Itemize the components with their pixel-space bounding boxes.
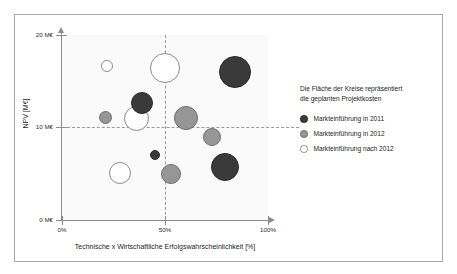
bubble-1-0[interactable] [99,111,112,124]
x-tick-label-50: 50% [145,226,185,233]
legend-caption: Die Fläche der Kreise repräsentiert die … [300,84,435,104]
bubble-0-1[interactable] [219,56,251,88]
bubble-0-3[interactable] [211,153,239,181]
x-tick-mark-100 [268,216,269,225]
chart-legend: Die Fläche der Kreise repräsentiert die … [300,84,440,156]
bubble-1-3[interactable] [161,164,181,184]
legend-caption-line-1: Die Fläche der Kreise repräsentiert [300,84,435,94]
bubble-2-3[interactable] [109,162,131,184]
legend-circle-icon-2012 [300,130,308,138]
y-tick-label-10: 10 M€ [13,123,53,130]
y-tick-label-20: 20 M€ [13,31,53,38]
legend-circle-icon-after-2012 [300,145,308,153]
legend-label-2011: Markteinführung in 2011 [314,115,385,122]
legend-circle-icon-2011 [300,115,308,123]
x-axis-line [61,220,271,221]
screenshot-canvas: 20 M€ 10 M€ 0 M€ 0% 50% 100% NPV [M€] Te… [0,0,457,274]
legend-item-2012[interactable]: Markteinführung in 2012 [300,126,440,141]
bubble-2-0[interactable] [101,60,113,72]
y-tick-mark-10 [56,127,67,128]
bubble-1-1[interactable] [174,106,198,130]
legend-label-2012: Markteinführung in 2012 [314,130,385,137]
x-axis-title: Technische x Wirtschaftliche Erfolgswahr… [40,243,290,250]
legend-item-after-2012[interactable]: Markteinführung nach 2012 [300,141,440,156]
x-tick-mark-50 [165,216,166,225]
legend-label-after-2012: Markteinführung nach 2012 [314,145,394,152]
y-tick-label-0: 0 M€ [13,216,53,223]
legend-caption-line-2: die geplanten Projektkosten [300,94,435,104]
x-tick-mark-0 [62,216,63,225]
y-axis-title: NPV [M€] [22,59,29,169]
x-tick-label-0: 0% [42,226,82,233]
y-axis-arrow-icon [58,27,64,33]
x-tick-label-100: 100% [248,226,288,233]
y-tick-mark-20 [56,35,67,36]
bubble-0-2[interactable] [150,150,160,160]
x-axis-arrow-icon [269,217,275,223]
legend-item-2011[interactable]: Markteinführung in 2011 [300,111,440,126]
bubble-0-0[interactable] [131,92,153,114]
